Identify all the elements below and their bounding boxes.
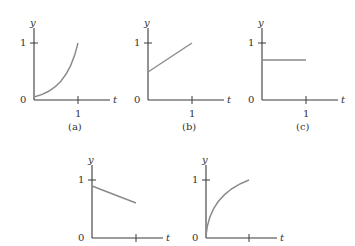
svg-text:1: 1: [248, 37, 254, 48]
svg-text:y: y: [257, 17, 264, 28]
svg-text:0: 0: [192, 232, 198, 243]
y-tick-label: 1: [192, 174, 198, 185]
panel-d: y t 1 0: [78, 154, 171, 243]
svg-text:y: y: [29, 17, 36, 28]
t-label: t: [113, 94, 118, 105]
t-label: t: [227, 94, 232, 105]
t-label: t: [341, 94, 346, 105]
svg-text:t: t: [280, 232, 285, 243]
t-label: t: [166, 232, 171, 243]
origin-label: 0: [192, 232, 198, 243]
svg-text:t: t: [227, 94, 232, 105]
svg-text:1: 1: [20, 37, 26, 48]
y-label: y: [29, 17, 36, 28]
y-tick-label: 1: [78, 174, 84, 185]
curve-line: [148, 43, 192, 72]
svg-text:1: 1: [189, 108, 195, 119]
origin-label: 0: [78, 232, 84, 243]
origin-label: 0: [248, 94, 254, 105]
svg-text:(c): (c): [296, 121, 310, 132]
svg-text:1: 1: [303, 108, 309, 119]
svg-text:1: 1: [78, 174, 84, 185]
y-tick-label: 1: [248, 37, 254, 48]
t-tick-label: 1: [303, 108, 309, 119]
svg-text:0: 0: [20, 94, 26, 105]
svg-text:y: y: [143, 17, 150, 28]
y-label: y: [143, 17, 150, 28]
y-label: y: [87, 154, 94, 165]
svg-text:1: 1: [134, 37, 140, 48]
svg-text:t: t: [166, 232, 171, 243]
curve-concave: [206, 180, 249, 236]
svg-text:0: 0: [78, 232, 84, 243]
figure-canvas: y t 1 0 1 (a) y t 1 0 1 (b) y t 1 0 1 (c…: [0, 0, 355, 246]
t-tick-label: 1: [75, 108, 81, 119]
panel-a: y t 1 0 1 (a): [20, 17, 118, 132]
panel-c: y t 1 0 1 (c): [248, 17, 346, 132]
curve-decreasing: [92, 186, 136, 203]
caption: (b): [182, 121, 196, 132]
panel-b: y t 1 0 1 (b): [134, 17, 232, 132]
svg-text:t: t: [341, 94, 346, 105]
origin-label: 0: [20, 94, 26, 105]
svg-text:1: 1: [192, 174, 198, 185]
y-label: y: [201, 154, 208, 165]
y-label: y: [257, 17, 264, 28]
caption: (c): [296, 121, 310, 132]
y-tick-label: 1: [134, 37, 140, 48]
origin-label: 0: [134, 94, 140, 105]
caption: (a): [68, 121, 82, 132]
svg-text:0: 0: [248, 94, 254, 105]
svg-text:t: t: [113, 94, 118, 105]
curve-convex: [34, 43, 78, 97]
svg-text:(a): (a): [68, 121, 82, 132]
svg-text:y: y: [201, 154, 208, 165]
svg-text:y: y: [87, 154, 94, 165]
svg-text:(b): (b): [182, 121, 196, 132]
panel-e: y t 1 0: [192, 154, 285, 243]
t-tick-label: 1: [189, 108, 195, 119]
t-label: t: [280, 232, 285, 243]
y-tick-label: 1: [20, 37, 26, 48]
svg-text:1: 1: [75, 108, 81, 119]
svg-text:0: 0: [134, 94, 140, 105]
